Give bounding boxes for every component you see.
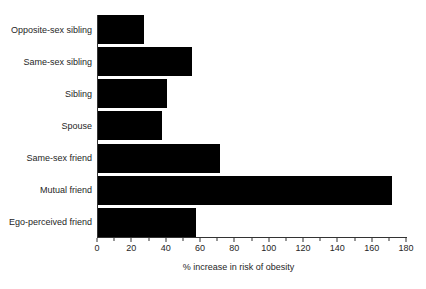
x-tick-label: 100 bbox=[261, 243, 276, 253]
x-tick-label: 40 bbox=[161, 243, 171, 253]
x-tick-label: 60 bbox=[195, 243, 205, 253]
x-tick-minor bbox=[114, 238, 115, 241]
x-tick-minor bbox=[182, 238, 183, 241]
x-tick-minor bbox=[217, 238, 218, 241]
bar-same-sex-friend bbox=[98, 144, 220, 173]
chart-row bbox=[98, 15, 407, 44]
category-label: Ego-perceived friend bbox=[0, 208, 92, 237]
x-tick-label: 180 bbox=[398, 243, 413, 253]
x-tick-major bbox=[268, 238, 269, 242]
x-tick-minor bbox=[251, 238, 252, 241]
x-tick-minor bbox=[148, 238, 149, 241]
category-label: Opposite-sex sibling bbox=[0, 15, 92, 44]
x-tick-label: 160 bbox=[364, 243, 379, 253]
chart-row bbox=[98, 208, 407, 237]
bar-mutual-friend bbox=[98, 176, 392, 205]
x-axis: 020406080100120140160180 bbox=[97, 238, 406, 260]
x-tick-minor bbox=[354, 238, 355, 241]
x-tick-label: 20 bbox=[126, 243, 136, 253]
x-tick-major bbox=[371, 238, 372, 242]
x-tick-minor bbox=[285, 238, 286, 241]
x-tick-major bbox=[200, 238, 201, 242]
bar-same-sex-sibling bbox=[98, 47, 192, 76]
bar-ego-perceived-friend bbox=[98, 208, 196, 237]
chart-row bbox=[98, 111, 407, 140]
x-tick-major bbox=[97, 238, 98, 242]
x-tick-minor bbox=[388, 238, 389, 241]
category-label: Spouse bbox=[0, 111, 92, 140]
chart-row bbox=[98, 79, 407, 108]
x-tick-major bbox=[303, 238, 304, 242]
x-tick-major bbox=[165, 238, 166, 242]
category-label: Mutual friend bbox=[0, 176, 92, 205]
x-tick-major bbox=[234, 238, 235, 242]
x-tick-label: 80 bbox=[229, 243, 239, 253]
chart-row bbox=[98, 176, 407, 205]
chart-row bbox=[98, 144, 407, 173]
x-tick-label: 0 bbox=[94, 243, 99, 253]
category-label: Sibling bbox=[0, 79, 92, 108]
chart-row bbox=[98, 47, 407, 76]
x-tick-label: 140 bbox=[330, 243, 345, 253]
obesity-risk-bar-chart: Opposite-sex siblingSame-sex siblingSibl… bbox=[0, 0, 426, 289]
category-labels: Opposite-sex siblingSame-sex siblingSibl… bbox=[0, 15, 92, 237]
bar-opposite-sex-sibling bbox=[98, 15, 144, 44]
bar-spouse bbox=[98, 111, 162, 140]
x-axis-title: % increase in risk of obesity bbox=[84, 262, 393, 272]
x-tick-major bbox=[337, 238, 338, 242]
bar-sibling bbox=[98, 79, 167, 108]
x-tick-major bbox=[131, 238, 132, 242]
category-label: Same-sex friend bbox=[0, 144, 92, 173]
plot-area bbox=[97, 15, 407, 238]
category-label: Same-sex sibling bbox=[0, 47, 92, 76]
x-tick-major bbox=[406, 238, 407, 242]
x-tick-minor bbox=[320, 238, 321, 241]
x-tick-label: 120 bbox=[295, 243, 310, 253]
